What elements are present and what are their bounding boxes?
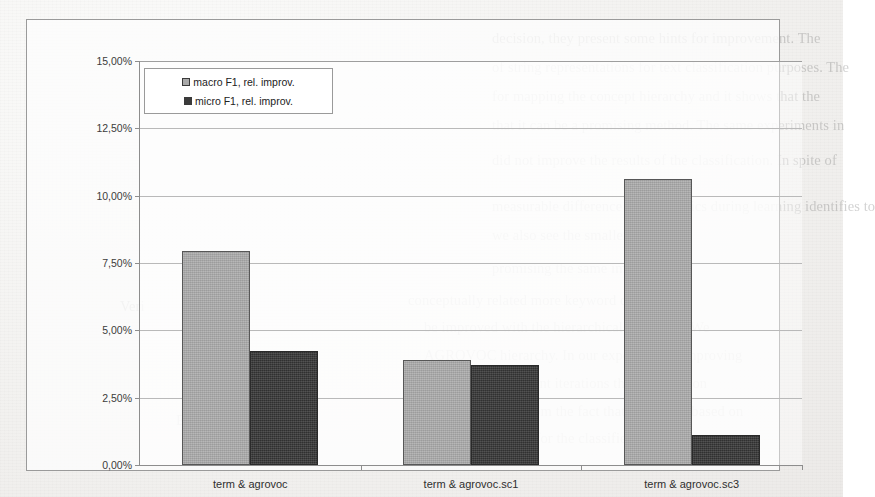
legend-swatch-macro-icon xyxy=(182,78,190,86)
y-axis-tick-label: 12,50% xyxy=(96,122,132,134)
gridline xyxy=(140,128,802,129)
legend-label-macro: macro F1, rel. improv. xyxy=(193,76,294,88)
legend-swatch-micro-icon xyxy=(184,97,192,105)
y-axis-tick-label: 2,50% xyxy=(102,392,132,404)
bar-macro-3 xyxy=(624,179,692,465)
bar-macro-1 xyxy=(182,251,250,465)
y-axis-tick-label: 0,00% xyxy=(102,459,132,471)
y-axis-tick-label: 5,00% xyxy=(102,324,132,336)
y-axis-tick-label: 10,00% xyxy=(96,190,132,202)
x-axis-tick-mark xyxy=(802,465,803,470)
y-axis-tick-mark xyxy=(135,61,140,62)
chart-frame: 0,00%2,50%5,00%7,50%10,00%12,50%15,00%te… xyxy=(26,19,780,471)
legend-item-micro: micro F1, rel. improv. xyxy=(184,95,293,107)
y-axis-tick-mark xyxy=(135,196,140,197)
bar-micro-2 xyxy=(471,365,539,465)
bar-micro-3 xyxy=(692,435,760,465)
y-axis-tick-mark xyxy=(135,465,140,466)
gridline xyxy=(140,196,802,197)
y-axis-tick-label: 15,00% xyxy=(96,55,132,67)
x-axis-category-label: term & agrovoc.sc3 xyxy=(644,478,739,490)
chart-legend: macro F1, rel. improv. micro F1, rel. im… xyxy=(144,68,333,114)
gridline xyxy=(140,61,802,62)
x-axis-category-label: term & agrovoc xyxy=(213,478,288,490)
y-axis-tick-mark xyxy=(135,398,140,399)
bar-micro-1 xyxy=(250,351,318,465)
x-axis-tick-mark xyxy=(581,465,582,470)
y-axis-tick-mark xyxy=(135,128,140,129)
y-axis-tick-mark xyxy=(135,263,140,264)
plot-area: 0,00%2,50%5,00%7,50%10,00%12,50%15,00%te… xyxy=(139,61,802,466)
x-axis-category-label: term & agrovoc.sc1 xyxy=(424,478,519,490)
y-axis-tick-mark xyxy=(135,330,140,331)
bar-macro-2 xyxy=(403,360,471,465)
legend-item-macro: macro F1, rel. improv. xyxy=(182,76,294,88)
legend-label-micro: micro F1, rel. improv. xyxy=(195,95,293,107)
x-axis-tick-mark xyxy=(361,465,362,470)
y-axis-tick-label: 7,50% xyxy=(102,257,132,269)
